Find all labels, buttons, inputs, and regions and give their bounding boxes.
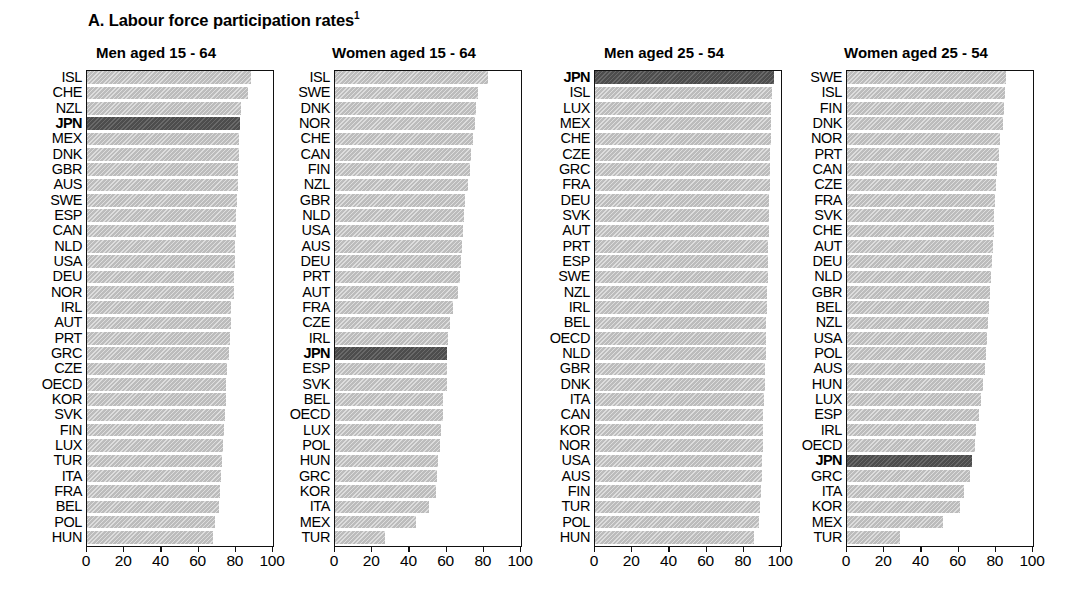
bar-row: MEX xyxy=(548,116,780,131)
bar-track xyxy=(846,147,1032,162)
x-tick xyxy=(883,547,884,552)
category-label-deu: DEU xyxy=(40,269,86,284)
bar-svk xyxy=(594,209,769,222)
category-label-fra: FRA xyxy=(800,193,846,208)
x-tick xyxy=(780,547,781,552)
bar-track xyxy=(594,116,780,131)
bar-tur xyxy=(594,501,760,514)
bar-track xyxy=(846,530,1032,545)
bar-nor xyxy=(86,286,234,299)
bar-track xyxy=(334,392,520,407)
bar-hun xyxy=(86,531,213,544)
category-label-dnk: DNK xyxy=(288,101,334,116)
bar-grc xyxy=(846,470,970,483)
bar-track xyxy=(334,453,520,468)
category-label-nld: NLD xyxy=(548,346,594,361)
bar-track xyxy=(846,177,1032,192)
bar-row: HUN xyxy=(40,530,272,545)
bar-track xyxy=(846,331,1032,346)
bar-row: IRL xyxy=(548,300,780,315)
x-axis: 020406080100 xyxy=(86,547,272,573)
category-label-swe: SWE xyxy=(288,85,334,100)
bar-kor xyxy=(334,485,436,498)
category-label-fin: FIN xyxy=(548,484,594,499)
panel-men-25-54: Men aged 25 - 54 JPNISLLUXMEXCHECZEGRCFR… xyxy=(548,44,780,589)
x-tick-label: 20 xyxy=(875,552,892,570)
x-tick-label: 20 xyxy=(623,552,640,570)
bar-row: DNK xyxy=(548,377,780,392)
bar-track xyxy=(86,85,272,100)
bar-track xyxy=(334,377,520,392)
category-label-deu: DEU xyxy=(548,193,594,208)
bar-mex xyxy=(334,516,416,529)
bar-row: FIN xyxy=(40,423,272,438)
x-axis: 020406080100 xyxy=(594,547,780,573)
category-label-grc: GRC xyxy=(548,162,594,177)
x-axis-ticks: 020406080100 xyxy=(86,547,272,552)
bar-irl xyxy=(334,332,448,345)
bar-lux xyxy=(334,424,441,437)
bar-row: GRC xyxy=(548,162,780,177)
bar-prt xyxy=(334,271,460,284)
plot-area: ISLSWEDNKNORCHECANFINNZLGBRNLDUSAAUSDEUP… xyxy=(288,70,520,545)
bar-track xyxy=(846,254,1032,269)
bar-track xyxy=(594,254,780,269)
bar-track xyxy=(86,346,272,361)
x-tick-label: 100 xyxy=(508,552,533,570)
bar-row: HUN xyxy=(800,377,1032,392)
bar-row: LUX xyxy=(548,101,780,116)
bar-row: CAN xyxy=(548,407,780,422)
bar-row: AUS xyxy=(40,177,272,192)
bar-row: GRC xyxy=(40,346,272,361)
bar-row: FIN xyxy=(800,101,1032,116)
bar-row: TUR xyxy=(40,453,272,468)
category-label-esp: ESP xyxy=(40,208,86,223)
bar-esp xyxy=(334,363,447,376)
bar-fra xyxy=(594,179,770,192)
bar-track xyxy=(594,530,780,545)
bar-usa xyxy=(594,455,762,468)
category-label-kor: KOR xyxy=(548,423,594,438)
bar-nor xyxy=(334,117,475,130)
bar-oecd xyxy=(86,378,226,391)
bar-nor xyxy=(846,133,1000,146)
bar-track xyxy=(86,269,272,284)
bar-row: SWE xyxy=(288,85,520,100)
bar-esp xyxy=(86,209,236,222)
category-label-jpn: JPN xyxy=(548,70,594,85)
category-label-esp: ESP xyxy=(288,361,334,376)
bar-row: ITA xyxy=(288,499,520,514)
x-tick xyxy=(743,547,744,552)
bar-row: NZL xyxy=(800,315,1032,330)
bar-prt xyxy=(86,332,230,345)
bar-nzl xyxy=(334,179,468,192)
bar-track xyxy=(846,484,1032,499)
bar-fin xyxy=(86,424,224,437)
bar-row: NLD xyxy=(40,239,272,254)
bar-ita xyxy=(334,501,429,514)
bar-row: FIN xyxy=(548,484,780,499)
category-label-nld: NLD xyxy=(288,208,334,223)
bar-row: MEX xyxy=(40,131,272,146)
bar-row: JPN xyxy=(800,453,1032,468)
bar-track xyxy=(86,116,272,131)
bar-pol xyxy=(846,347,986,360)
category-label-pol: POL xyxy=(548,515,594,530)
bar-track xyxy=(334,269,520,284)
category-label-che: CHE xyxy=(288,131,334,146)
x-tick-label: 40 xyxy=(660,552,677,570)
bar-row: ITA xyxy=(548,392,780,407)
bar-track xyxy=(86,208,272,223)
bar-deu xyxy=(846,255,992,268)
x-tick-label: 0 xyxy=(82,552,90,570)
bar-track xyxy=(86,484,272,499)
bar-row: DNK xyxy=(288,101,520,116)
category-label-fin: FIN xyxy=(288,162,334,177)
x-tick xyxy=(123,547,124,552)
bar-row: ESP xyxy=(548,254,780,269)
bar-swe xyxy=(334,87,478,100)
category-label-kor: KOR xyxy=(288,484,334,499)
bar-row: JPN xyxy=(288,346,520,361)
category-label-kor: KOR xyxy=(800,499,846,514)
bar-mex xyxy=(86,133,239,146)
